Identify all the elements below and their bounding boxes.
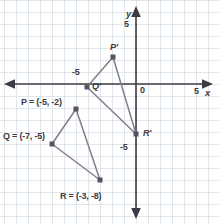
origin-label: 0 (140, 86, 145, 95)
y-tick-label-neg5: -5 (120, 143, 128, 152)
coordinate-label-p: P = (-5, -2) (21, 98, 62, 107)
coordinate-label-q: Q = (-7, -5) (3, 132, 45, 141)
point-label-q-prime: Q' (92, 82, 101, 91)
vertex-p (74, 107, 79, 112)
y-axis-label: y (126, 9, 131, 19)
vertex-p-prime (111, 55, 116, 60)
point-label-r-prime: R' (143, 129, 151, 138)
vertex-q-prime (85, 85, 90, 90)
vertex-q (50, 142, 55, 147)
graph-canvas (0, 0, 219, 224)
grid-background (0, 0, 219, 224)
coordinate-label-r: R = (-3, -8) (60, 192, 101, 201)
coordinate-plane-figure: y x 5 -5 -5 5 0 P' Q' R' P = (-5, -2) Q … (0, 0, 219, 224)
vertex-r (98, 178, 103, 183)
x-tick-label-5: 5 (194, 87, 199, 96)
x-tick-label-neg5: -5 (72, 68, 80, 77)
y-tick-label-5: 5 (124, 20, 129, 29)
x-axis-label: x (205, 88, 210, 98)
vertex-r-prime (134, 132, 139, 137)
point-label-p-prime: P' (110, 43, 118, 52)
